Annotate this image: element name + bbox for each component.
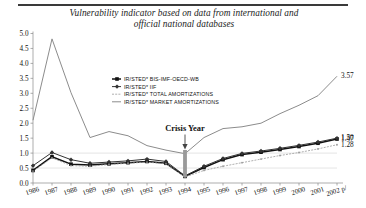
legend-label-0: IR/STED* BIS-IMF-OECD-WB (124, 76, 199, 82)
x-tick-label: 1993 (157, 185, 173, 197)
x-tick-label: 1999 (271, 185, 287, 197)
x-tick-label: 1987 (43, 185, 59, 197)
data-labels-group: 3.571.471.501.28 (341, 71, 354, 148)
x-tick-label: 1990 (100, 185, 116, 197)
annotation-arrow-head (182, 144, 187, 150)
series-marker-2 (203, 170, 205, 172)
x-tick-label: 1991 (119, 185, 135, 197)
series-marker-2 (336, 144, 338, 146)
y-tick-label: 3.5 (20, 75, 29, 83)
y-tick-label: 0.0 (20, 180, 29, 188)
series-marker-2 (51, 157, 53, 159)
x-tick-label: 1998 (252, 185, 268, 197)
y-tick-label: 2.0 (20, 120, 29, 128)
y-tick-label: 1.5 (20, 135, 29, 143)
data-label: 1.28 (341, 140, 354, 149)
x-tick-label: 1988 (62, 185, 78, 197)
chart-plot-area: 0.00.51.01.52.02.53.03.54.04.55.0 198619… (0, 0, 366, 208)
y-axis-tick-labels: 0.00.51.01.52.02.53.03.54.04.55.0 (20, 30, 29, 188)
series-marker-2 (165, 163, 167, 165)
series-marker-2 (222, 165, 224, 167)
legend-marker-1 (115, 84, 119, 88)
x-axis-tick-labels: 1986198719881989199019911992199319941995… (24, 184, 347, 198)
x-tick-label: 2001 (309, 185, 325, 197)
x-tick-label: 1992 (138, 185, 154, 197)
series-marker-2 (108, 164, 110, 166)
annotation-crisis-year-label: Crisis Year (165, 124, 205, 133)
x-tick-label: 2000 (290, 185, 306, 197)
series-marker-2 (279, 155, 281, 157)
x-tick-label: 1989 (81, 185, 97, 197)
y-tick-label: 1.0 (20, 150, 29, 158)
y-tick-label: 4.5 (20, 45, 29, 53)
series-marker-2 (89, 165, 91, 167)
x-tick-label: 2002 p/ (325, 184, 348, 198)
legend-label-3: IR/STED* MARKET AMORTIZATIONS (124, 99, 219, 105)
chart-legend: IR/STED* BIS-IMF-OECD-WBIR/STED* IIFIR/S… (112, 76, 219, 105)
annotation-crisis-year-bar (183, 150, 187, 177)
series-marker-2 (127, 162, 129, 164)
series-marker-1 (69, 157, 73, 161)
legend-label-2: IR/STED* TOTAL AMORTIZATIONS (124, 91, 213, 97)
x-tick-label: 1997 (233, 185, 249, 197)
series-marker-2 (260, 158, 262, 160)
legend-marker-0 (115, 77, 119, 81)
chart-container: Vulnerability indicator based on data fr… (0, 0, 366, 208)
y-tick-label: 5.0 (20, 30, 29, 38)
x-tick-label: 1996 (214, 185, 230, 197)
x-tick-label: 1994 (176, 185, 192, 197)
legend-label-1: IR/STED* IIF (124, 84, 157, 90)
series-marker-2 (241, 162, 243, 164)
x-tick-label: 1995 (195, 185, 211, 197)
series-marker-2 (70, 165, 72, 167)
series-marker-2 (317, 148, 319, 150)
y-tick-label: 3.0 (20, 90, 29, 98)
series-marker-2 (146, 161, 148, 163)
y-tick-label: 2.5 (20, 105, 29, 113)
y-tick-label: 4.0 (20, 60, 29, 68)
y-tick-label: 0.5 (20, 165, 29, 173)
data-label: 3.57 (341, 71, 354, 80)
series-marker-2 (32, 170, 34, 172)
series-marker-2 (298, 152, 300, 154)
